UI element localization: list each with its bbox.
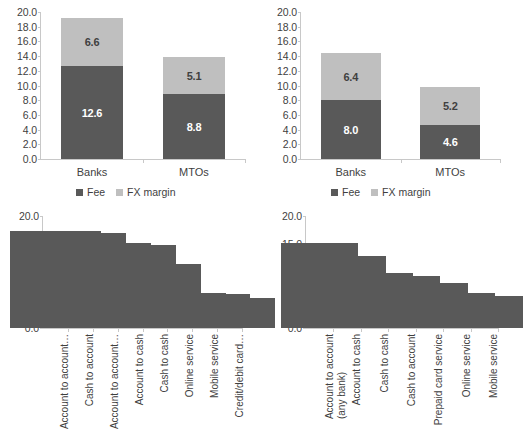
y-axis-tick-mark [38, 115, 41, 116]
x-axis-tick-mark [443, 328, 444, 332]
y-axis-tick-mark [298, 71, 301, 72]
legend-entry-fx-margin: FX margin [116, 186, 175, 198]
bar-group: Mobile service [446, 216, 523, 328]
x-axis-tick-mark [471, 328, 472, 332]
legend-swatch-fx-margin-icon [371, 189, 378, 196]
y-axis-tick-mark [298, 86, 301, 87]
legend-label-fee: Fee [342, 186, 360, 198]
plot-area: 0.05.010.015.020.0Account to account…Cas… [42, 216, 242, 329]
x-axis-tick-mark [118, 328, 119, 332]
y-axis-tick-label: 8.0 [283, 94, 297, 106]
chart-panel-bottom-right: 0.05.010.015.020.0Account to account(any… [255, 200, 509, 431]
bar-value-label: 12.6 [82, 107, 103, 119]
bar-value-label: 8.0 [343, 124, 358, 136]
stacked-bar[interactable]: 6.48.0 [321, 12, 381, 159]
x-axis-category-label: Account to account… [59, 334, 71, 429]
y-axis-tick-label: 0.0 [283, 153, 297, 165]
y-axis-tick-mark [38, 71, 41, 72]
y-axis-tick-label: 18.0 [277, 21, 297, 33]
x-axis-tick-mark [500, 159, 501, 163]
x-axis-tick-mark [333, 328, 334, 332]
x-axis-category-label: Account to account(any bank) [324, 334, 347, 419]
bar-group: 6.612.6Banks [61, 12, 122, 159]
x-axis-tick-mark [401, 159, 402, 163]
bar-group: 5.18.8MTOs [163, 12, 224, 159]
y-axis-tick-mark [38, 100, 41, 101]
bar-value-label: 6.6 [85, 36, 100, 48]
x-axis-category-label: Online service [184, 334, 196, 397]
x-axis-category-label-line2: (any bank) [335, 334, 347, 419]
x-axis-category-label: MTOs [435, 166, 465, 178]
bar-group: 5.24.6MTOs [420, 12, 480, 159]
x-axis-category-label: MTOs [179, 166, 209, 178]
x-axis-category-label: Cash to account [84, 334, 96, 406]
y-axis-tick-label: 10.0 [17, 80, 37, 92]
chart-panel-top-left: 0.02.04.06.08.010.012.014.016.018.020.06… [0, 0, 255, 200]
bar-segment-fee[interactable] [446, 296, 523, 328]
bar-segment-fee[interactable]: 8.0 [321, 100, 381, 159]
y-axis-tick-label: 4.0 [283, 124, 297, 136]
y-axis-tick-label: 2.0 [283, 138, 297, 150]
chart-panel-bottom-left: 0.05.010.015.020.0Account to account…Cas… [0, 200, 255, 431]
x-axis-category-label: Online service [461, 334, 473, 397]
y-axis-tick-mark [298, 100, 301, 101]
y-axis-tick-mark [298, 12, 301, 13]
legend-label-fx-margin: FX margin [127, 186, 175, 198]
y-axis-tick-mark [38, 41, 41, 42]
y-axis-tick-mark [38, 12, 41, 13]
x-axis-tick-mark [192, 328, 193, 332]
y-axis-tick-mark [298, 115, 301, 116]
y-axis-tick-label: 16.0 [17, 35, 37, 47]
bar-value-label: 5.2 [443, 100, 458, 112]
bar-segment-fee[interactable]: 12.6 [61, 66, 122, 159]
legend-swatch-fx-margin-icon [116, 189, 123, 196]
y-axis-tick-mark [38, 86, 41, 87]
x-axis-tick-mark [498, 328, 499, 332]
bar-segment-fx-margin[interactable]: 5.2 [420, 87, 480, 125]
x-axis-tick-mark [361, 328, 362, 332]
stacked-bar[interactable]: 5.18.8 [163, 12, 224, 159]
x-axis-category-label: Account to cash [351, 334, 363, 405]
bar-segment-fee[interactable]: 8.8 [163, 94, 224, 159]
y-axis-tick-mark [38, 56, 41, 57]
plot-area: 0.05.010.015.020.0Account to account(any… [305, 216, 498, 329]
bar-value-label: 4.6 [443, 136, 458, 148]
x-axis-tick-mark [416, 328, 417, 332]
x-axis-category-label: Prepaid card service [433, 334, 445, 425]
stacked-bar[interactable]: 6.612.6 [61, 12, 122, 159]
bar-value-label: 8.8 [187, 121, 202, 133]
y-axis-tick-label: 16.0 [277, 35, 297, 47]
legend-entry-fee: Fee [331, 186, 360, 198]
y-axis-tick-mark [38, 144, 41, 145]
x-axis-tick-mark [143, 159, 144, 163]
bar-value-label: 6.4 [343, 71, 358, 83]
x-axis-tick-mark [167, 328, 168, 332]
legend-swatch-fee-icon [331, 189, 338, 196]
legend-label-fee: Fee [87, 186, 105, 198]
y-axis-tick-mark [298, 159, 301, 160]
y-axis-tick-label: 8.0 [23, 94, 37, 106]
y-axis-tick-label: 4.0 [23, 124, 37, 136]
x-axis-category-label: Mobile service [488, 334, 500, 398]
x-axis-tick-mark [388, 328, 389, 332]
y-axis-tick-mark [38, 130, 41, 131]
y-axis-tick-label: 10.0 [277, 80, 297, 92]
bar-segment-fx-margin[interactable]: 6.6 [61, 18, 122, 67]
y-axis-tick-mark [298, 144, 301, 145]
bar-segment-fx-margin[interactable]: 5.1 [163, 57, 224, 94]
chart-legend: Fee FX margin [76, 186, 176, 198]
stacked-bar[interactable]: 5.24.6 [420, 12, 480, 159]
x-axis-tick-mark [143, 328, 144, 332]
x-axis-category-label: Credit/debit card… [234, 334, 246, 417]
y-axis-tick-label: 14.0 [17, 50, 37, 62]
y-axis-tick-label: 12.0 [277, 65, 297, 77]
x-axis-category-label: Mobile service [209, 334, 221, 398]
x-axis-category-label: Banks [77, 166, 108, 178]
y-axis-tick-label: 6.0 [23, 109, 37, 121]
bar-value-label: 5.1 [187, 70, 202, 82]
y-axis-tick-label: 2.0 [23, 138, 37, 150]
bar-segment-fee[interactable]: 4.6 [420, 125, 480, 159]
bar-segment-fx-margin[interactable]: 6.4 [321, 53, 381, 100]
plot-area: 0.02.04.06.08.010.012.014.016.018.020.06… [40, 12, 245, 160]
